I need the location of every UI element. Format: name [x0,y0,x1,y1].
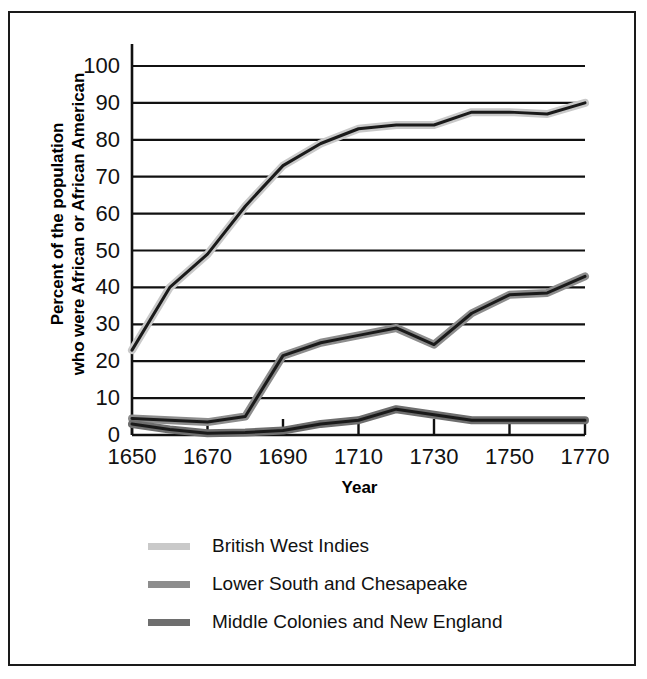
x-axis-tick-label: 1690 [241,446,325,468]
y-axis-tick-label: 0 [74,424,120,446]
chart-page: Percent of the population who were Afric… [0,0,647,679]
legend-label-british-west-indies: British West Indies [212,535,369,557]
y-axis-tick-label: 40 [74,276,120,298]
x-axis-tick-label: 1670 [166,446,250,468]
y-axis-tick-label: 20 [74,350,120,372]
y-axis-tick-label: 90 [74,92,120,114]
y-axis-tick-label: 10 [74,387,120,409]
legend-item-british-west-indies: British West Indies [148,527,578,565]
y-axis-tick-label: 50 [74,240,120,262]
x-axis-tick-label: 1650 [90,446,174,468]
series-band-1 [132,276,585,422]
y-axis-tick-label: 30 [74,313,120,335]
y-axis-tick-label: 100 [74,55,120,77]
chart-legend: British West Indies Lower South and Ches… [148,527,578,641]
y-axis-tick-label: 80 [74,129,120,151]
y-axis-tick-label: 60 [74,203,120,225]
legend-label-lower-south-and-chesapeake: Lower South and Chesapeake [212,573,468,595]
legend-label-middle-colonies-and-new-england: Middle Colonies and New England [212,611,502,633]
legend-swatch-british-west-indies [148,543,190,550]
legend-swatch-middle-colonies-and-new-england [148,619,190,626]
legend-item-lower-south-and-chesapeake: Lower South and Chesapeake [148,565,578,603]
legend-swatch-lower-south-and-chesapeake [148,581,190,588]
x-axis-tick-label: 1710 [317,446,401,468]
x-axis-tick-label: 1750 [468,446,552,468]
legend-item-middle-colonies-and-new-england: Middle Colonies and New England [148,603,578,641]
x-axis-title: Year [132,478,587,498]
x-axis-tick-label: 1770 [543,446,627,468]
y-axis-tick-label: 70 [74,166,120,188]
x-axis-tick-label: 1730 [392,446,476,468]
